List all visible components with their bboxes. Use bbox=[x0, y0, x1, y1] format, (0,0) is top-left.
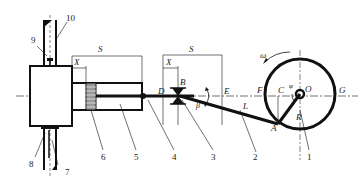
point-label-f: F bbox=[256, 85, 263, 95]
point-label-c: C bbox=[278, 85, 285, 95]
point-label-b: B bbox=[180, 77, 186, 87]
pipe-top bbox=[43, 15, 56, 70]
point-label-g: G bbox=[339, 85, 346, 95]
dim-label-phi: φ bbox=[289, 82, 293, 90]
part-label-5: 5 bbox=[134, 152, 139, 162]
connecting-rod bbox=[180, 96, 278, 124]
dim-label-x-left: X bbox=[73, 57, 80, 67]
dim-label-s-left: S bbox=[98, 44, 103, 54]
dim-label-s-right: S bbox=[189, 44, 194, 54]
part-label-6: 6 bbox=[101, 152, 106, 162]
point-label-a: A bbox=[270, 123, 277, 133]
part-label-1: 1 bbox=[307, 152, 312, 162]
joint-d bbox=[140, 93, 146, 99]
part-label-2: 2 bbox=[253, 152, 258, 162]
part-label-9: 9 bbox=[31, 35, 36, 45]
main-block bbox=[30, 66, 72, 126]
point-label-o: O bbox=[305, 84, 312, 94]
point-label-e: E bbox=[223, 86, 230, 96]
dim-label-beta: β bbox=[195, 101, 200, 110]
part-label-10: 10 bbox=[66, 13, 76, 23]
part-label-4: 4 bbox=[172, 152, 177, 162]
part-label-7: 7 bbox=[65, 167, 70, 177]
pipe-bottom bbox=[41, 126, 59, 176]
dim-label-r: R bbox=[295, 112, 302, 122]
point-label-d: D bbox=[157, 86, 165, 96]
crank-slider-diagram: 1 2 3 4 5 6 7 8 9 10 B D E F C O G A S X… bbox=[0, 0, 361, 186]
dim-label-l: L bbox=[242, 101, 248, 111]
part-label-3: 3 bbox=[211, 152, 216, 162]
dim-label-omega: ω bbox=[260, 50, 266, 60]
part-label-8: 8 bbox=[29, 159, 34, 169]
dim-label-x-right: X bbox=[165, 57, 172, 67]
